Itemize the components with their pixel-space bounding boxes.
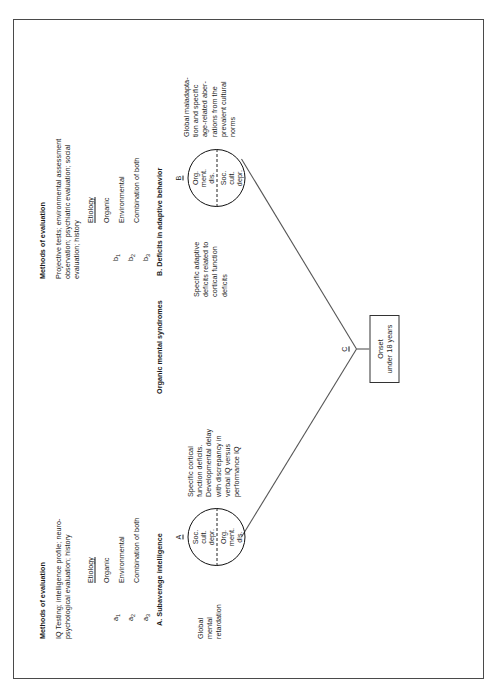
etiology-a-heading: Etiology [85, 557, 94, 583]
etiology-a-marker-3: a3 [131, 614, 153, 621]
diagram-canvas: Methods of evaluation IQ Testing; intell… [13, 19, 484, 679]
etiology-b-marker-3: b3 [131, 254, 153, 261]
section-b-circle-divider [216, 149, 217, 207]
connector-lines [13, 19, 484, 679]
section-b-left-text: Specific adaptive deficits related to co… [191, 217, 228, 297]
onset-box-line1: Onset [375, 339, 384, 358]
section-a-circle-divider [216, 508, 217, 566]
etiology-b-heading: Etiology [85, 197, 94, 223]
onset-box-line2: under 18 years [384, 325, 393, 374]
methods-text-left: IQ Testing; intelligence profile; neuro-… [53, 469, 71, 639]
section-a-title: A. Subaverage intelligence [154, 533, 163, 626]
etiology-b-item-3: Combination of both [131, 158, 140, 223]
section-b-node-label: B [173, 168, 182, 188]
methods-heading-left: Methods of evaluation [37, 489, 46, 639]
section-b-circle-top-label: Org. ment. dis. [191, 149, 215, 207]
section-b-title: B. Deficits in adaptive behavior [154, 168, 163, 276]
methods-heading-right: Methods of evaluation [37, 109, 46, 279]
section-a-node-label: A [173, 527, 182, 547]
methods-text-right: Projective tests; environmental assessme… [53, 89, 81, 279]
onset-box: Onset under 18 years [369, 315, 399, 383]
section-a-circle-top-label: Soc. cult. depr. [191, 508, 215, 566]
section-a-right-text: Specific cortical function deficits. Dev… [185, 405, 240, 497]
etiology-a-item-2: Environmental [116, 536, 125, 583]
center-label: Organic mental syndromes [154, 300, 163, 394]
etiology-b-item-1: Organic [101, 197, 110, 223]
etiology-b-item-2: Environmental [116, 176, 125, 223]
section-b-circle-bottom-label: Soc. cult. depr. [219, 149, 243, 207]
etiology-a-item-1: Organic [101, 557, 110, 583]
etiology-a-item-3: Combination of both [131, 518, 140, 583]
diagram-rotated-wrapper: Methods of evaluation IQ Testing; intell… [13, 19, 484, 679]
section-a-circle-bottom-label: Org. ment. dis. [219, 508, 243, 566]
section-a-left-text: Global mental retardation [195, 577, 223, 639]
section-b-right-text: Global maladapta- tion and specific age-… [181, 59, 236, 137]
section-c-node-label: C [339, 339, 348, 359]
